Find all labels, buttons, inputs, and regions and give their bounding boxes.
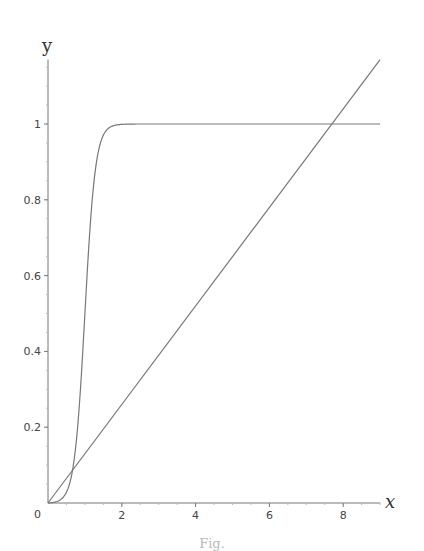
x-tick-label: 6: [266, 509, 273, 522]
y-tick-label: 0.4: [24, 345, 42, 358]
x-tick-label: 2: [118, 509, 125, 522]
axes: 24680.20.40.60.81: [24, 60, 381, 522]
series-group: [48, 60, 380, 503]
origin-label: 0: [34, 508, 41, 521]
y-tick-label: 0.2: [24, 421, 42, 434]
series-line: [48, 60, 380, 503]
y-tick-label: 1: [34, 118, 41, 131]
x-tick-label: 4: [192, 509, 199, 522]
x-tick-label: 8: [340, 509, 347, 522]
x-axis-label: x: [385, 491, 395, 512]
figure-caption: Fig.: [0, 536, 424, 551]
series-sigmoid: [48, 124, 380, 503]
y-axis-label: y: [41, 35, 53, 56]
y-tick-label: 0.8: [24, 194, 42, 207]
y-tick-label: 0.6: [24, 270, 42, 283]
